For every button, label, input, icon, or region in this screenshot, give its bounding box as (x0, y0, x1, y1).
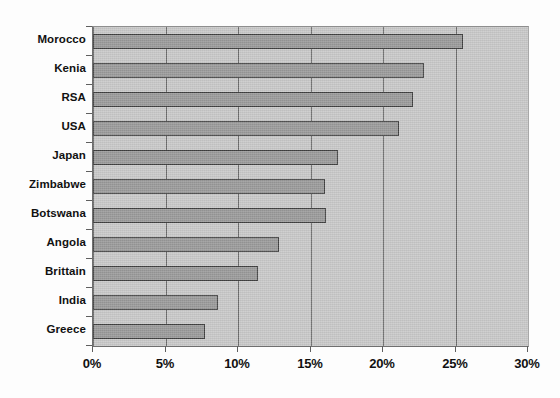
y-axis-tick (86, 200, 92, 201)
y-axis-label-kenia: Kenia (54, 63, 86, 75)
bar-india (93, 295, 218, 310)
y-axis-label-zimbabwe: Zimbabwe (29, 179, 86, 191)
x-axis-tick-15pct (310, 346, 311, 352)
x-axis-label-25pct: 25% (442, 356, 467, 371)
y-axis-label-greece: Greece (46, 324, 86, 336)
y-axis-tick (86, 287, 92, 288)
bar-usa (93, 121, 399, 136)
x-axis-label-10pct: 10% (224, 356, 249, 371)
y-axis-label-usa: USA (61, 121, 86, 133)
x-axis-label-15pct: 15% (297, 356, 322, 371)
y-axis-tick (86, 26, 92, 27)
x-axis-tick-0pct (92, 346, 93, 352)
bar-botswana (93, 208, 326, 223)
y-axis-tick (86, 316, 92, 317)
x-axis-tick-30pct (527, 346, 528, 352)
x-axis-label-5pct: 5% (156, 356, 174, 371)
bar-chart: MoroccoKeniaRSAUSAJapanZimbabweBotswanaA… (0, 0, 560, 398)
bar-row (93, 208, 326, 223)
bar-row (93, 63, 424, 78)
x-axis-label-0pct: 0% (83, 356, 101, 371)
bar-row (93, 237, 279, 252)
bar-row (93, 34, 463, 49)
y-axis-tick (86, 84, 92, 85)
y-axis-label-brittain: Brittain (45, 266, 86, 278)
bar-row (93, 121, 399, 136)
x-axis-tick-10pct (237, 346, 238, 352)
y-axis-label-angola: Angola (46, 237, 86, 249)
y-axis-tick (86, 171, 92, 172)
x-axis-tick-5pct (165, 346, 166, 352)
y-axis-tick (86, 229, 92, 230)
bar-japan (93, 150, 338, 165)
y-axis-tick (86, 142, 92, 143)
bar-row (93, 179, 325, 194)
gridline-25pct (456, 27, 457, 346)
y-axis-tick (86, 258, 92, 259)
y-axis-label-india: India (59, 295, 86, 307)
bar-row (93, 150, 338, 165)
y-axis-label-botswana: Botswana (31, 208, 86, 220)
x-axis-label-30pct: 30% (514, 356, 539, 371)
bar-brittain (93, 266, 258, 281)
y-axis-label-japan: Japan (52, 150, 86, 162)
bar-zimbabwe (93, 179, 325, 194)
y-axis-tick (86, 55, 92, 56)
bar-angola (93, 237, 279, 252)
bar-row (93, 266, 258, 281)
bar-row (93, 295, 218, 310)
bar-row (93, 324, 205, 339)
plot-area (92, 26, 529, 347)
bar-row (93, 92, 413, 107)
bar-rsa (93, 92, 413, 107)
x-axis-tick-20pct (382, 346, 383, 352)
bar-greece (93, 324, 205, 339)
x-axis-tick-25pct (455, 346, 456, 352)
y-axis-label-morocco: Morocco (37, 34, 86, 46)
y-axis-tick (86, 113, 92, 114)
x-axis-label-20pct: 20% (369, 356, 394, 371)
bar-kenia (93, 63, 424, 78)
bar-morocco (93, 34, 463, 49)
y-axis-label-rsa: RSA (61, 92, 86, 104)
